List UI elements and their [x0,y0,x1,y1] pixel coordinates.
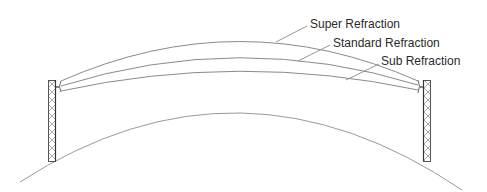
sub-refraction-label: Sub Refraction [381,54,460,68]
right-tower [418,80,431,162]
super-leader-line [276,26,307,42]
standard-refraction-label: Standard Refraction [333,36,440,50]
standard-refraction-path [61,58,418,86]
sub-leader-line [346,64,379,80]
refraction-diagram [0,0,487,192]
right-antenna-icon [418,80,420,93]
sub-refraction-path [61,71,418,91]
left-tower [49,80,62,162]
left-antenna-icon [60,81,62,92]
standard-leader-line [298,45,330,61]
super-refraction-label: Super Refraction [310,17,400,31]
earth-curvature [20,113,462,190]
